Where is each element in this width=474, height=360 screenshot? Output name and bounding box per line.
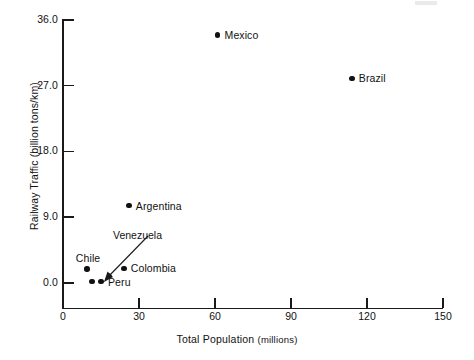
venezuela-callout-arrow xyxy=(95,233,155,286)
y-tick-mark xyxy=(64,216,74,218)
x-axis-line xyxy=(62,308,443,310)
scan-artifact xyxy=(415,1,437,5)
data-point xyxy=(349,76,354,81)
x-tick-label: 0 xyxy=(43,310,83,322)
y-tick-label: 0.0 xyxy=(12,276,58,288)
x-tick-label: 150 xyxy=(423,310,463,322)
x-tick-mark xyxy=(290,298,292,308)
scatter-plot-figure: 0.09.018.027.036.0 0306090120150 Railway… xyxy=(0,0,474,360)
x-tick-mark xyxy=(366,298,368,308)
data-point-label: Mexico xyxy=(221,29,259,41)
data-point-label: Brazil xyxy=(355,72,386,84)
x-tick-mark xyxy=(442,298,444,308)
y-axis-line xyxy=(62,19,64,309)
y-tick-mark xyxy=(64,151,74,153)
x-tick-label: 120 xyxy=(347,310,387,322)
y-axis-title: Railway Traffic (billion tons/km) xyxy=(28,36,40,276)
x-axis-title-unit: (millions) xyxy=(258,334,298,345)
x-tick-label: 60 xyxy=(195,310,235,322)
data-point-label: Argentina xyxy=(132,200,182,212)
y-tick-mark xyxy=(64,19,74,21)
x-axis-title-text: Total Population xyxy=(176,333,254,345)
y-tick-mark xyxy=(64,85,74,87)
data-point xyxy=(126,203,131,208)
y-tick-mark xyxy=(64,282,74,284)
x-tick-label: 30 xyxy=(119,310,159,322)
x-tick-mark xyxy=(214,298,216,308)
x-axis-title: Total Population (millions) xyxy=(0,333,474,345)
x-tick-mark xyxy=(138,298,140,308)
x-tick-label: 90 xyxy=(271,310,311,322)
data-point xyxy=(215,32,220,37)
y-tick-label: 36.0 xyxy=(12,13,58,25)
data-point xyxy=(84,266,89,271)
x-tick-mark xyxy=(62,298,64,308)
